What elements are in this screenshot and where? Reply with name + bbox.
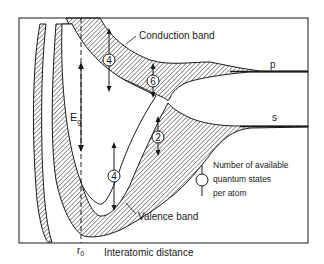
legend: Number of available quantum states per a… [196, 160, 289, 198]
svg-text:4: 4 [106, 55, 112, 66]
valence-band-label: Valence band [138, 211, 198, 222]
band-diagram: Eg 4 6 2 4 Conduction band Valence band … [0, 0, 324, 264]
svg-text:quantum states: quantum states [213, 174, 271, 184]
inner-core-band [33, 24, 52, 242]
svg-text:6: 6 [150, 76, 156, 87]
svg-text:2: 2 [155, 132, 161, 143]
conduction-leader-line [126, 36, 136, 44]
r0-label: r0 [77, 245, 84, 257]
x-axis-label: Interatomic distance [104, 247, 194, 258]
legend-circle-icon [196, 174, 208, 186]
svg-text:4: 4 [111, 171, 117, 182]
p-level-label: p [270, 59, 276, 70]
s-level-label: s [272, 112, 277, 123]
svg-text:Number of available: Number of available [213, 160, 289, 170]
svg-text:per atom: per atom [213, 188, 247, 198]
conduction-band-label: Conduction band [139, 30, 215, 41]
